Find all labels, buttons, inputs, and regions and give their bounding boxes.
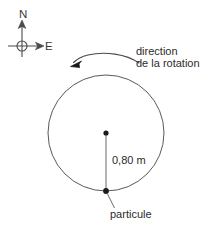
rotation-direction-label-line2: de la rotation [136, 58, 200, 70]
compass-rose-group [8, 20, 44, 57]
radius-value-label: 0,80 m [112, 155, 146, 167]
rotation-direction-label: direction de la rotation [136, 46, 200, 69]
physics-diagram-figure: N E direction de la rotation 0,80 m part… [0, 0, 207, 231]
particle-label: particule [110, 209, 152, 221]
compass-east-label: E [45, 40, 53, 52]
rotation-arrow-group [71, 53, 140, 67]
diagram-canvas [0, 0, 207, 231]
particle-leader-line [107, 193, 115, 208]
circle-center-dot [103, 130, 108, 135]
particle-dot [103, 188, 109, 194]
rotation-arrowhead [71, 61, 82, 68]
rotation-direction-label-line1: direction [136, 45, 178, 57]
compass-north-label: N [19, 8, 27, 20]
rotation-arc [74, 53, 140, 63]
